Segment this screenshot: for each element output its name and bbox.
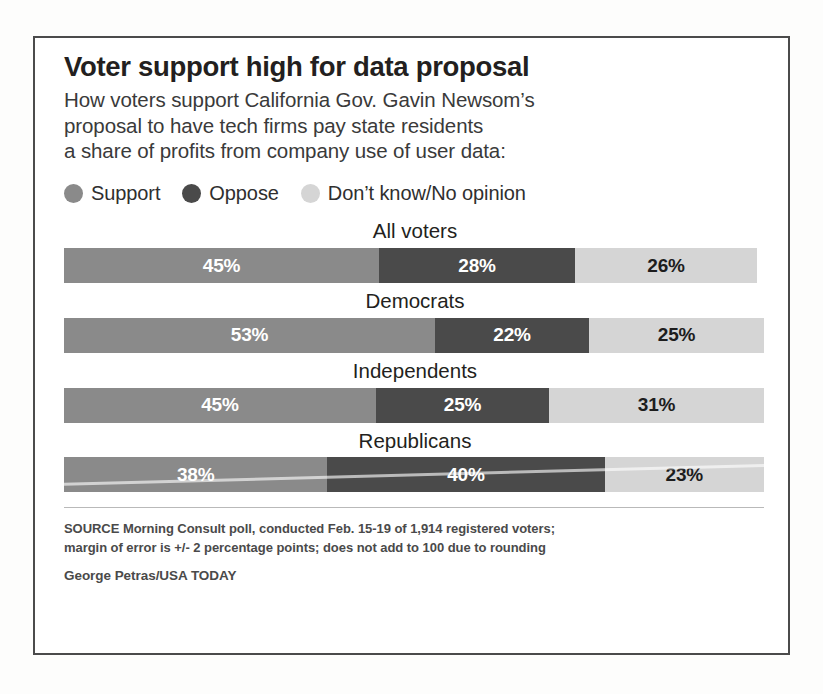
bar-segment-value: 31% bbox=[638, 394, 675, 416]
legend-label-oppose: Oppose bbox=[209, 182, 278, 205]
bar-segment: 22% bbox=[435, 318, 589, 353]
bar-segment-value: 53% bbox=[231, 324, 268, 346]
bar-group: Republicans38%40%23% bbox=[64, 426, 766, 493]
stacked-bar-chart: All voters45%28%26%Democrats53%22%25%Ind… bbox=[64, 216, 766, 492]
bar-segment: 45% bbox=[64, 388, 376, 423]
stacked-bar: 45%25%31% bbox=[64, 388, 764, 423]
stacked-bar: 45%28%26% bbox=[64, 248, 764, 283]
bar-group: All voters45%28%26% bbox=[64, 216, 766, 283]
bar-group-label: Republicans bbox=[64, 426, 766, 458]
bar-segment-value: 23% bbox=[666, 464, 703, 486]
bar-segment-value: 25% bbox=[658, 324, 695, 346]
scanned-page: Voter support high for data proposal How… bbox=[0, 0, 823, 694]
bar-segment: 23% bbox=[605, 457, 764, 492]
bar-segment-value: 25% bbox=[444, 394, 481, 416]
legend-label-dont-know: Don’t know/No opinion bbox=[328, 182, 526, 205]
circle-swatch-support-icon bbox=[64, 184, 83, 203]
chart-legend: Support Oppose Don’t know/No opinion bbox=[64, 178, 766, 208]
infographic-card: Voter support high for data proposal How… bbox=[33, 36, 790, 655]
bar-segment-value: 40% bbox=[447, 464, 484, 486]
bar-group-label: Democrats bbox=[64, 286, 766, 318]
subtitle-line-3: a share of profits from company use of u… bbox=[64, 138, 766, 164]
bar-segment-value: 26% bbox=[647, 255, 684, 277]
bar-group-label: Independents bbox=[64, 356, 766, 388]
legend-item-oppose: Oppose bbox=[182, 182, 278, 205]
source-note: SOURCE Morning Consult poll, conducted F… bbox=[64, 520, 766, 557]
subtitle-line-1: How voters support California Gov. Gavin… bbox=[64, 87, 766, 113]
bar-segment-value: 38% bbox=[177, 464, 214, 486]
bar-segment: 38% bbox=[64, 457, 327, 492]
bar-segment-value: 45% bbox=[201, 394, 238, 416]
bar-segment: 28% bbox=[379, 248, 575, 283]
bar-segment: 40% bbox=[327, 457, 604, 492]
footer-divider bbox=[64, 507, 764, 508]
credit-line: George Petras/USA TODAY bbox=[64, 568, 766, 583]
chart-subtitle: How voters support California Gov. Gavin… bbox=[64, 87, 766, 164]
bar-segment: 25% bbox=[589, 318, 764, 353]
legend-label-support: Support bbox=[91, 182, 160, 205]
bar-group: Democrats53%22%25% bbox=[64, 286, 766, 353]
bar-segment: 31% bbox=[549, 388, 764, 423]
circle-swatch-dont-know-icon bbox=[301, 184, 320, 203]
source-line-2: margin of error is +/- 2 percentage poin… bbox=[64, 539, 766, 557]
bar-segment-value: 45% bbox=[203, 255, 240, 277]
legend-item-support: Support bbox=[64, 182, 160, 205]
bar-segment: 26% bbox=[575, 248, 757, 283]
bar-segment: 45% bbox=[64, 248, 379, 283]
stacked-bar: 53%22%25% bbox=[64, 318, 764, 353]
stacked-bar: 38%40%23% bbox=[64, 457, 764, 492]
bar-group: Independents45%25%31% bbox=[64, 356, 766, 423]
circle-swatch-oppose-icon bbox=[182, 184, 201, 203]
legend-item-dont-know: Don’t know/No opinion bbox=[301, 182, 526, 205]
page-title: Voter support high for data proposal bbox=[64, 52, 766, 83]
bar-group-label: All voters bbox=[64, 216, 766, 248]
bar-segment: 25% bbox=[376, 388, 549, 423]
source-line-1: SOURCE Morning Consult poll, conducted F… bbox=[64, 520, 766, 538]
bar-segment-value: 22% bbox=[493, 324, 530, 346]
bar-segment: 53% bbox=[64, 318, 435, 353]
subtitle-line-2: proposal to have tech firms pay state re… bbox=[64, 113, 766, 139]
bar-segment-value: 28% bbox=[458, 255, 495, 277]
